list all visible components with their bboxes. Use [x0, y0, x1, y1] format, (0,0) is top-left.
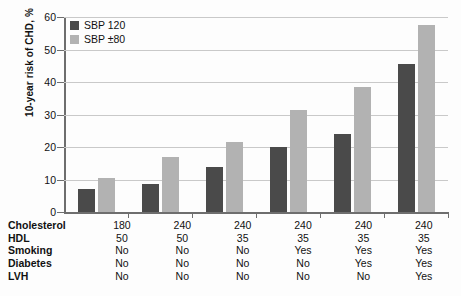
- y-axis-tick-label: 60: [22, 11, 56, 23]
- risk-factor-value: 240: [333, 219, 393, 232]
- risk-factor-value: Yes: [333, 244, 393, 257]
- y-axis-tick-mark: [57, 115, 64, 116]
- gridline: [64, 50, 448, 51]
- risk-factor-value: 50: [92, 232, 152, 245]
- risk-factor-value: No: [213, 269, 273, 282]
- legend-item: SBP 120: [70, 18, 125, 32]
- chd-risk-bar-chart-figure: 10-year risk of CHD, % 0102030405060 SBP…: [0, 0, 461, 296]
- bar-sbp-120-group-5: [334, 134, 351, 212]
- risk-factor-value: 240: [394, 219, 454, 232]
- bar-sbp-180-group-3: [226, 142, 243, 212]
- legend-item: SBP ±80: [70, 32, 125, 46]
- risk-factor-value: No: [92, 269, 152, 282]
- x-axis-tick: [192, 212, 193, 218]
- bar-sbp-120-group-3: [206, 167, 223, 213]
- risk-factor-value: No: [273, 269, 333, 282]
- bar-sbp-180-group-5: [354, 87, 371, 212]
- risk-factor-value: Yes: [333, 257, 393, 270]
- risk-factor-value: Yes: [394, 269, 454, 282]
- risk-factor-value: 240: [213, 219, 273, 232]
- risk-factor-label: Smoking: [8, 244, 92, 257]
- risk-factor-value: Yes: [394, 244, 454, 257]
- gridline: [64, 82, 448, 83]
- y-axis-tick-mark: [57, 50, 64, 51]
- risk-factor-value: No: [152, 244, 212, 257]
- bar-sbp-180-group-2: [162, 157, 179, 212]
- risk-factor-label: Cholesterol: [8, 219, 92, 232]
- x-axis-tick: [384, 212, 385, 218]
- x-axis-tick: [448, 212, 449, 218]
- y-axis-tick-mark: [57, 212, 64, 213]
- table-row: LVHNoNoNoNoNoYes: [8, 269, 454, 282]
- risk-factor-value: 35: [333, 232, 393, 245]
- bar-sbp-180-group-1: [98, 178, 115, 212]
- risk-factor-table: Cholesterol180240240240240240HDL50503535…: [8, 219, 454, 282]
- risk-factor-value: No: [92, 244, 152, 257]
- y-axis-tick-label: 10: [22, 174, 56, 186]
- x-axis-tick: [128, 212, 129, 218]
- y-axis-tick-mark: [57, 180, 64, 181]
- legend-item-label: SBP 120: [84, 19, 125, 32]
- table-row: SmokingNoNoNoYesYesYes: [8, 244, 454, 257]
- risk-factor-value: 35: [394, 232, 454, 245]
- table-row: DiabetesNoNoNoNoYesYes: [8, 257, 454, 270]
- bar-sbp-120-group-1: [78, 189, 95, 212]
- table-row: Cholesterol180240240240240240: [8, 219, 454, 232]
- risk-factor-value: 35: [213, 232, 273, 245]
- y-axis-tick-mark: [57, 82, 64, 83]
- risk-factor-value: Yes: [394, 257, 454, 270]
- y-axis-tick-mark: [57, 147, 64, 148]
- legend-swatch-icon: [70, 35, 79, 44]
- risk-factor-value: No: [152, 269, 212, 282]
- risk-factor-value: No: [152, 257, 212, 270]
- risk-factor-value: 180: [92, 219, 152, 232]
- risk-factor-value: 50: [152, 232, 212, 245]
- risk-factor-value: No: [213, 257, 273, 270]
- risk-factor-value: No: [333, 269, 393, 282]
- y-axis-tick-label: 0: [22, 206, 56, 218]
- risk-factor-value: 240: [273, 219, 333, 232]
- bar-sbp-120-group-6: [398, 64, 415, 212]
- table-row: HDL505035353535: [8, 232, 454, 245]
- bar-sbp-180-group-4: [290, 110, 307, 212]
- risk-factor-value: No: [92, 257, 152, 270]
- risk-factor-value: 35: [273, 232, 333, 245]
- x-axis-tick: [320, 212, 321, 218]
- gridline: [64, 115, 448, 116]
- y-axis-tick-label: 30: [22, 109, 56, 121]
- bar-sbp-180-group-6: [418, 25, 435, 212]
- y-axis-tick-label: 20: [22, 141, 56, 153]
- bar-sbp-120-group-4: [270, 147, 287, 212]
- gridline: [64, 180, 448, 181]
- plot-area: [64, 17, 448, 212]
- y-axis-tick-label: 40: [22, 76, 56, 88]
- risk-factor-label: Diabetes: [8, 257, 92, 270]
- y-axis-tick-mark: [57, 17, 64, 18]
- chart-legend: SBP 120SBP ±80: [70, 18, 125, 46]
- risk-factor-value: No: [213, 244, 273, 257]
- x-axis-tick: [256, 212, 257, 218]
- risk-factor-value: 240: [152, 219, 212, 232]
- risk-factor-value: No: [273, 257, 333, 270]
- gridline: [64, 147, 448, 148]
- risk-factor-value: Yes: [273, 244, 333, 257]
- legend-swatch-icon: [70, 21, 79, 30]
- bar-sbp-120-group-2: [142, 184, 159, 212]
- risk-factor-label: HDL: [8, 232, 92, 245]
- risk-factor-label: LVH: [8, 269, 92, 282]
- y-axis-tick-label: 50: [22, 44, 56, 56]
- legend-item-label: SBP ±80: [84, 33, 125, 46]
